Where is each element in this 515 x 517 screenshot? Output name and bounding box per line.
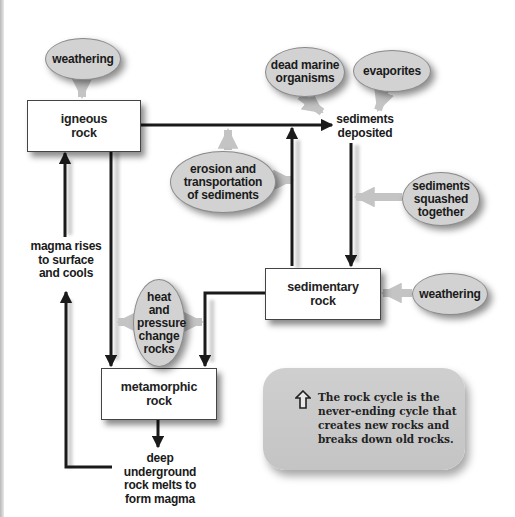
heat-pressure-label: heat and pressure change rocks — [137, 291, 181, 356]
deep-underground-label: deep underground rock melts to form magm… — [113, 452, 207, 506]
sediments-squashed-label: sediments squashed together — [410, 180, 472, 219]
metamorphic-rock-label: metamorphic rock — [119, 380, 199, 408]
erosion-transport-ellipse: erosion and transportation of sediments — [170, 151, 276, 213]
metamorphic-rock-box: metamorphic rock — [101, 368, 217, 420]
evaporites-label: evaporites — [363, 65, 421, 78]
sediments-deposited-label: sediments deposited — [333, 113, 397, 140]
magma-rises-label: magma rises to surface and cools — [30, 240, 102, 281]
heat-pressure-ellipse: heat and pressure change rocks — [133, 279, 185, 367]
evaporites-ellipse: evaporites — [353, 50, 431, 92]
weathering-top-label: weathering — [52, 53, 113, 66]
weathering-top-ellipse: weathering — [45, 38, 121, 80]
dead-marine-organisms-label: dead marine organisms — [270, 59, 340, 85]
sedimentary-rock-box: sedimentary rock — [265, 268, 381, 320]
up-arrow-outline-icon — [295, 390, 311, 409]
weathering-right-ellipse: weathering — [412, 273, 488, 315]
sediments-squashed-ellipse: sediments squashed together — [402, 172, 480, 226]
sedimentary-rock-label: sedimentary rock — [283, 280, 363, 308]
igneous-rock-box: igneous rock — [27, 100, 141, 152]
dead-marine-organisms-ellipse: dead marine organisms — [265, 47, 345, 97]
weathering-right-label: weathering — [419, 288, 480, 301]
info-callout: The rock cycle is the never-ending cycle… — [263, 368, 465, 470]
igneous-rock-label: igneous rock — [54, 112, 114, 140]
callout-text: The rock cycle is the never-ending cycle… — [318, 390, 468, 446]
erosion-transport-label: erosion and transportation of sediments — [181, 163, 265, 202]
